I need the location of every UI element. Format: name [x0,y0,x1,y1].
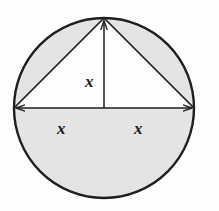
figure-canvas [0,0,219,211]
height-label-x: x [85,73,94,90]
right-half-label-x: x [134,120,143,137]
left-half-label-x: x [57,120,66,137]
geometry-figure: x x x [0,0,219,211]
